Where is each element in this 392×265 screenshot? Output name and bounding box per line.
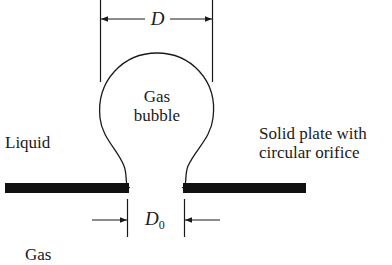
gas-bubble-label: Gas bubble bbox=[117, 87, 197, 125]
liquid-label: Liquid bbox=[5, 133, 50, 152]
gas-bubble-label-line1: Gas bbox=[117, 87, 197, 106]
orifice-diameter-label: D0 bbox=[145, 208, 165, 236]
solid-plate-label-line2: circular orifice bbox=[259, 143, 367, 162]
bubble-diameter-label: D bbox=[145, 8, 170, 30]
solid-plate-label: Solid plate with circular orifice bbox=[259, 124, 367, 162]
orifice-diameter-symbol: D bbox=[145, 208, 159, 229]
solid-plate-label-line1: Solid plate with bbox=[259, 124, 367, 143]
gas-bubble-label-line2: bubble bbox=[117, 106, 197, 125]
orifice-diameter-subscript: 0 bbox=[159, 218, 165, 232]
solid-plate-right bbox=[183, 183, 306, 193]
solid-plate-left bbox=[5, 183, 129, 193]
gas-label: Gas bbox=[25, 245, 51, 264]
